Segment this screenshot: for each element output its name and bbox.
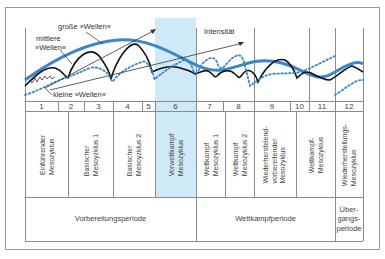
arrowhead-icon <box>150 29 156 34</box>
mesocycle-competition: Wettkampf-Mesozyklus <box>296 112 335 197</box>
label-small-waves: kleine »Wellen« <box>53 90 106 99</box>
mesocycle-competition-2: WettkampfMesozyklus 2 <box>225 112 254 197</box>
mesocycle-precompetition: VorwettkampfMesozyklus <box>155 112 196 197</box>
label-medium-waves-1: mittlere <box>36 34 61 43</box>
column-number-4: 4 <box>113 101 142 112</box>
column-number-5: 5 <box>142 101 155 112</box>
column-number-6: 6 <box>155 101 196 112</box>
column-number-11: 11 <box>309 101 335 112</box>
column-number-3: 3 <box>84 101 113 112</box>
column-number-10: 10 <box>290 101 309 112</box>
leader-small <box>45 88 52 95</box>
column-number-1: 1 <box>25 101 58 112</box>
period-transition: Über- gangs- periode <box>335 197 363 241</box>
mesocycle-basic-1: BasischerMesoyzklus 1 <box>68 112 113 197</box>
mesocycle-restorative-preparatory: Wiederherstelend-vorbereitenderMesozyklu… <box>254 112 296 197</box>
label-medium-waves-2: »Wellen« <box>35 43 66 52</box>
period-preparation: Vorbereitungsperiode <box>25 197 196 241</box>
period-competition: Wettkampfperiode <box>196 197 335 241</box>
mesocycle-basic-2: BasischerMesoyzklus 2 <box>113 112 155 197</box>
column-number-8: 8 <box>223 101 254 112</box>
mesocycle-restoration: Wiederherstellungs-Mesozyklus <box>335 112 363 197</box>
column-number-9: 9 <box>254 101 290 112</box>
mesocycle-introductory: EinführenderMesozyklus <box>25 112 68 197</box>
label-intensity: Intensität <box>204 27 234 36</box>
column-number-2: 2 <box>58 101 84 112</box>
label-large-waves: große »Wellen« <box>58 22 111 31</box>
leader-large <box>86 32 103 44</box>
mesocycle-competition-1: WettkampfMesozyklus 1 <box>196 112 225 197</box>
column-number-12: 12 <box>335 101 363 112</box>
column-number-7: 7 <box>196 101 223 112</box>
